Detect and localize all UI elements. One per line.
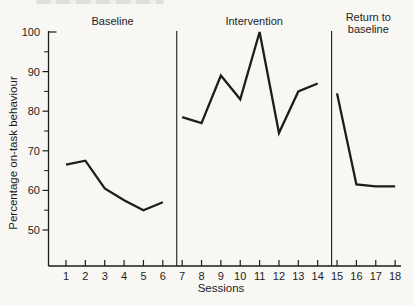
x-tick-label: 2 (82, 270, 88, 282)
chart-generated-layer: 5060708090100123456789101112131415161718… (22, 11, 402, 282)
y-tick-label: 100 (22, 26, 40, 38)
y-tick-label: 80 (28, 105, 40, 117)
x-tick-label: 8 (198, 270, 204, 282)
data-line-3 (337, 93, 395, 186)
x-tick-label: 3 (102, 270, 108, 282)
data-line-2 (182, 32, 318, 133)
x-axis-title: Sessions (198, 282, 245, 294)
x-tick-label: 5 (140, 270, 146, 282)
x-tick-label: 12 (273, 270, 285, 282)
data-line-1 (66, 161, 163, 211)
x-tick-label: 16 (350, 270, 362, 282)
phase-label: Intervention (225, 15, 282, 27)
x-tick-label: 11 (254, 270, 265, 282)
x-tick-label: 7 (179, 270, 185, 282)
x-tick-label: 15 (331, 270, 343, 282)
y-tick-label: 70 (28, 145, 40, 157)
x-tick-label: 17 (370, 270, 382, 282)
x-tick-label: 10 (234, 270, 246, 282)
phase-label: baseline (348, 23, 389, 35)
y-tick-label: 90 (28, 66, 40, 78)
y-tick-label: 60 (28, 184, 40, 196)
phase-label: Baseline (92, 15, 134, 27)
x-tick-label: 14 (312, 270, 324, 282)
line-chart-figure: 5060708090100123456789101112131415161718… (0, 0, 414, 305)
y-axis-title: Percentage on-task behaviour (7, 76, 19, 230)
x-tick-label: 6 (160, 270, 166, 282)
x-tick-label: 13 (292, 270, 304, 282)
y-tick-label: 50 (28, 224, 40, 236)
x-tick-label: 18 (389, 270, 401, 282)
x-tick-label: 4 (121, 270, 127, 282)
chart-canvas: 5060708090100123456789101112131415161718… (0, 0, 414, 305)
phase-label: Return to (346, 11, 391, 23)
x-tick-label: 1 (63, 270, 69, 282)
x-tick-label: 9 (218, 270, 224, 282)
